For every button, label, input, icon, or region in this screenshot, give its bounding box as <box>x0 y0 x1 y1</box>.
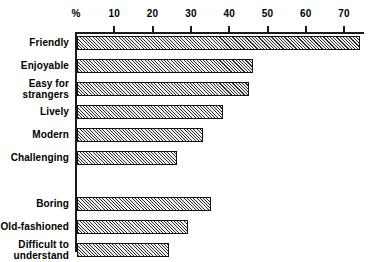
bar <box>77 243 169 257</box>
bar-row: Lively <box>0 105 379 119</box>
axis-tick-label-30: 30 <box>176 8 206 19</box>
category-label: Easy for strangers <box>0 78 69 100</box>
bar-row: Friendly <box>0 36 379 50</box>
bar <box>77 82 249 96</box>
axis-tick-label-60: 60 <box>291 8 321 19</box>
axis-unit-label: % <box>61 8 91 19</box>
axis-tick-40 <box>228 26 230 33</box>
axis-tick-label-70: 70 <box>329 8 359 19</box>
category-label: Difficult to understand <box>0 239 69 261</box>
axis-tick-50 <box>267 26 269 33</box>
bar-chart: % 10203040506070 FriendlyEnjoyableEasy f… <box>0 0 379 262</box>
bar-row: Old-fashioned <box>0 220 379 234</box>
category-label: Old-fashioned <box>0 221 69 232</box>
axis-tick-70 <box>343 26 345 33</box>
axis-tick-label-40: 40 <box>214 8 244 19</box>
bar <box>77 36 360 50</box>
axis-tick-label-10: 10 <box>99 8 129 19</box>
axis-tick-label-50: 50 <box>253 8 283 19</box>
bar-row: Modern <box>0 128 379 142</box>
bar <box>77 59 253 73</box>
category-label: Modern <box>0 129 69 140</box>
category-label: Lively <box>0 106 69 117</box>
category-label: Challenging <box>0 152 69 163</box>
bar <box>77 197 211 211</box>
category-label: Enjoyable <box>0 60 69 71</box>
bar-row: Enjoyable <box>0 59 379 73</box>
axis-tick-60 <box>305 26 307 33</box>
bar <box>77 151 177 165</box>
top-axis-line <box>75 32 364 34</box>
bar <box>77 220 188 234</box>
axis-tick-30 <box>190 26 192 33</box>
bar <box>77 128 203 142</box>
bar-row: Difficult to understand <box>0 243 379 257</box>
axis-tick-20 <box>152 26 154 33</box>
category-label: Boring <box>0 198 69 209</box>
bar <box>77 105 223 119</box>
axis-tick-label-20: 20 <box>138 8 168 19</box>
category-label: Friendly <box>0 37 69 48</box>
axis-tick-10 <box>113 26 115 33</box>
bar-row: Boring <box>0 197 379 211</box>
bar-row: Easy for strangers <box>0 82 379 96</box>
bar-row: Challenging <box>0 151 379 165</box>
